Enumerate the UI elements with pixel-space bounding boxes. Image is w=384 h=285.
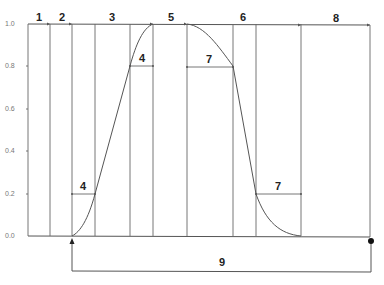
interval-fall-low <box>255 193 302 195</box>
segment-label-2: 2 <box>59 11 65 23</box>
interval-label-rise-low: 4 <box>80 180 87 192</box>
interval-rise-high <box>129 65 154 67</box>
segment-label-5: 5 <box>168 11 174 23</box>
bottom-axis-line <box>28 236 370 237</box>
dot-marker-icon <box>368 238 374 244</box>
y-tick-0-6: 0.6 <box>5 105 15 112</box>
y-tick-0-2: 0.2 <box>5 190 15 197</box>
segment-label-8: 8 <box>333 12 339 24</box>
period-label: 9 <box>219 256 225 268</box>
falling-edge-curve <box>187 24 301 236</box>
segment-label-6: 6 <box>240 11 246 23</box>
segment-label-3: 3 <box>109 11 115 23</box>
y-tick-0-4: 0.4 <box>5 147 15 154</box>
interval-rise-low <box>71 193 96 195</box>
interval-fall-high <box>186 66 234 68</box>
y-tick-1-0: 1.0 <box>5 20 15 27</box>
waveform-diagram: 1.0 0.8 0.6 0.4 0.2 0.0 1 2 3 <box>0 0 384 285</box>
vertical-dividers <box>28 24 370 237</box>
top-axis-line <box>28 24 370 25</box>
y-tick-0-0: 0.0 <box>5 232 15 239</box>
segment-label-1: 1 <box>36 11 42 23</box>
interval-label-rise-high: 4 <box>139 52 146 64</box>
interval-label-fall-low: 7 <box>275 180 281 192</box>
interval-label-fall-high: 7 <box>206 53 212 65</box>
y-tick-0-8: 0.8 <box>5 62 15 69</box>
triangle-marker-icon <box>70 238 75 244</box>
